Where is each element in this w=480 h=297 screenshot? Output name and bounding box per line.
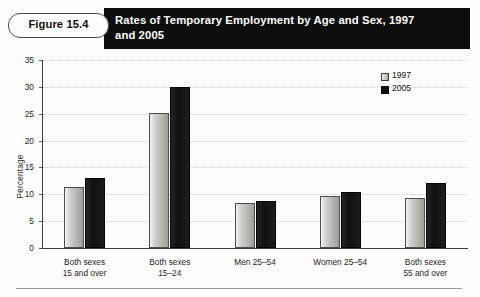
category-label-line-1: Both sexes: [125, 257, 215, 268]
y-axis-tick-label: 25: [12, 109, 34, 119]
x-axis-category-label: Both sexes15–24: [125, 257, 215, 280]
bar-2005-4: [341, 192, 361, 248]
bar-1997-4: [320, 196, 340, 248]
x-axis-line: [42, 248, 468, 249]
bar-2005-2: [170, 87, 190, 248]
bottom-divider: [16, 288, 462, 289]
category-label-line-2: 15–24: [125, 268, 215, 279]
y-axis-tick-label: 0: [12, 243, 34, 253]
figure-number-badge: Figure 15.4: [8, 13, 109, 38]
figure-title: Rates of Temporary Employment by Age and…: [115, 13, 415, 42]
bar-1997-5: [405, 198, 425, 248]
category-label-line-1: Men 25–54: [210, 257, 300, 268]
y-axis-tick-label: 30: [12, 82, 34, 92]
category-label-line-1: Women 25–54: [295, 257, 385, 268]
category-label-line-1: Both sexes: [40, 257, 130, 268]
category-label-line-1: Both sexes: [380, 257, 470, 268]
y-axis-tick-label: 10: [12, 189, 34, 199]
legend-item-2005: 2005: [381, 84, 461, 97]
y-axis-tick-label: 35: [12, 55, 34, 65]
bar-2005-5: [426, 183, 446, 248]
legend-label-1997: 1997: [392, 70, 411, 80]
x-axis-category-label: Men 25–54: [210, 257, 300, 268]
x-axis-category-label: Women 25–54: [295, 257, 385, 268]
gridline: [42, 194, 468, 195]
bar-1997-2: [149, 113, 169, 248]
gridline: [42, 114, 468, 115]
figure-container: Rates of Temporary Employment by Age and…: [0, 0, 480, 297]
gridline: [42, 141, 468, 142]
chart-legend: 1997 2005: [381, 71, 461, 97]
legend-label-2005: 2005: [392, 83, 411, 93]
bar-1997-1: [64, 187, 84, 248]
bar-1997-3: [235, 203, 255, 248]
gridline: [42, 60, 468, 61]
y-axis-tick-label: 5: [12, 216, 34, 226]
x-axis-category-label: Both sexes55 and over: [380, 257, 470, 280]
y-axis-tick-label: 20: [12, 136, 34, 146]
bar-2005-1: [85, 178, 105, 248]
figure-number-label: Figure 15.4: [9, 18, 108, 30]
legend-swatch-1997-icon: [381, 73, 389, 81]
x-axis-category-label: Both sexes15 and over: [40, 257, 130, 280]
y-axis-line: [42, 60, 43, 249]
bar-2005-3: [256, 201, 276, 248]
gridline: [42, 167, 468, 168]
figure-header-band: Rates of Temporary Employment by Age and…: [104, 8, 470, 49]
category-label-line-2: 55 and over: [380, 268, 470, 279]
category-label-line-2: 15 and over: [40, 268, 130, 279]
y-axis-tick-label: 15: [12, 162, 34, 172]
legend-swatch-2005-icon: [381, 86, 389, 94]
